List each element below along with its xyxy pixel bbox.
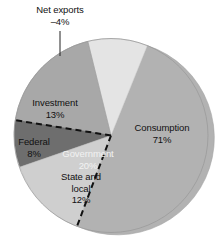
group-label-government: Government 20%	[48, 148, 128, 171]
slice-label-state-and-local-name: State and	[44, 171, 118, 183]
slice-label-net-exports: Net exports –4%	[12, 4, 108, 27]
slice-label-state-and-local-name2: local	[44, 183, 118, 195]
slice-label-net-exports-value: –4%	[12, 16, 108, 28]
slice-label-consumption-name: Consumption	[116, 122, 208, 134]
group-label-government-value: 20%	[48, 160, 128, 172]
pie-chart: Net exports –4% Investment 13% Consumpti…	[0, 0, 222, 249]
slice-label-state-and-local: State and local 12%	[44, 171, 118, 206]
slice-label-state-and-local-value: 12%	[44, 194, 118, 206]
slice-label-investment-value: 13%	[12, 109, 98, 121]
slice-label-consumption: Consumption 71%	[116, 122, 208, 145]
group-label-government-name: Government	[48, 148, 128, 160]
slice-label-investment: Investment 13%	[12, 97, 98, 120]
slice-label-net-exports-name: Net exports	[12, 4, 108, 16]
slice-label-consumption-value: 71%	[116, 134, 208, 146]
slice-label-federal-name: Federal	[6, 136, 62, 148]
slice-label-investment-name: Investment	[12, 97, 98, 109]
